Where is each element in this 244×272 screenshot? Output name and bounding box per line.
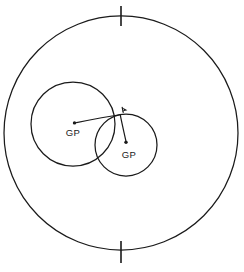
right-center-dot <box>124 141 127 144</box>
leader-line-right <box>120 115 126 140</box>
left-center-dot <box>73 121 76 124</box>
outer-circle <box>4 16 238 250</box>
circles-diagram: GP GP <box>0 0 244 272</box>
right-center-label: GP <box>122 149 136 160</box>
left-center-label: GP <box>66 127 80 138</box>
right-inner-circle <box>95 114 157 176</box>
figure-canvas: GP GP <box>0 0 244 272</box>
